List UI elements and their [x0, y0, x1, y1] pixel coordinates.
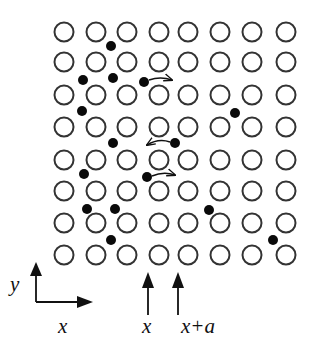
interstitial-atom — [170, 138, 180, 148]
interstitial-atom — [230, 108, 240, 118]
host-atom — [87, 53, 106, 72]
host-atom — [150, 182, 169, 201]
jump-arrow-left — [147, 141, 170, 145]
interstitial-atom — [82, 204, 92, 214]
host-atom — [211, 182, 230, 201]
host-atom — [277, 23, 296, 42]
host-atom — [243, 53, 262, 72]
interstitial-atom — [108, 73, 118, 83]
host-atom — [277, 86, 296, 105]
host-atom — [179, 151, 198, 170]
diffusion-lattice-diagram — [0, 0, 316, 356]
y-axis-arrowhead-icon — [30, 262, 42, 276]
host-atom — [118, 151, 137, 170]
host-atom — [118, 53, 137, 72]
interstitial-atom — [268, 235, 278, 245]
interstitial-atom — [106, 41, 116, 51]
host-atom — [277, 118, 296, 137]
host-atom — [150, 118, 169, 137]
host-atom — [277, 246, 296, 265]
host-atom — [243, 118, 262, 137]
host-atom — [179, 182, 198, 201]
jump-arrows — [147, 78, 175, 176]
host-atom — [118, 86, 137, 105]
host-atom — [150, 214, 169, 233]
interstitial-atom — [108, 138, 118, 148]
host-atom — [87, 214, 106, 233]
host-atom — [87, 182, 106, 201]
host-atom — [55, 214, 74, 233]
interstitial-atom — [77, 106, 87, 116]
host-atom — [118, 118, 137, 137]
host-atom — [211, 151, 230, 170]
host-atom — [179, 246, 198, 265]
host-atom — [87, 23, 106, 42]
host-atom — [87, 118, 106, 137]
host-atom — [179, 23, 198, 42]
host-atom — [211, 53, 230, 72]
up-arrowhead-icon — [142, 272, 154, 288]
host-atom — [55, 151, 74, 170]
host-atom — [179, 118, 198, 137]
host-atom — [211, 246, 230, 265]
host-atom — [55, 86, 74, 105]
interstitial-atom — [110, 204, 120, 214]
host-atom — [87, 151, 106, 170]
host-atom — [150, 86, 169, 105]
host-atom — [211, 23, 230, 42]
host-atom — [211, 214, 230, 233]
host-atom — [55, 23, 74, 42]
host-atom — [87, 246, 106, 265]
host-atom — [179, 86, 198, 105]
plane-markers — [142, 272, 184, 315]
jump-arrow-right — [149, 78, 172, 80]
host-atom — [243, 182, 262, 201]
plane-x-plus-a-label: x+a — [181, 316, 215, 337]
host-atom — [55, 53, 74, 72]
up-arrowhead-icon — [172, 272, 184, 288]
host-atom — [55, 246, 74, 265]
host-atom — [118, 182, 137, 201]
host-atom — [55, 118, 74, 137]
y-axis-label: y — [10, 274, 19, 295]
host-atom — [277, 151, 296, 170]
host-atom — [118, 23, 137, 42]
host-atom — [277, 53, 296, 72]
interstitial-atom — [78, 75, 88, 85]
host-atom — [150, 151, 169, 170]
host-atom — [150, 246, 169, 265]
host-atom — [243, 214, 262, 233]
host-atom — [277, 182, 296, 201]
host-atom — [179, 53, 198, 72]
interstitial-atom — [79, 169, 89, 179]
interstitial-atom — [106, 235, 116, 245]
interstitial-atom — [142, 172, 152, 182]
jump-arrow-right — [152, 173, 175, 176]
interstitial-atom — [204, 205, 214, 215]
host-atom — [243, 246, 262, 265]
host-atom — [150, 53, 169, 72]
coordinate-axes — [30, 262, 93, 308]
host-atom — [118, 246, 137, 265]
host-atom — [243, 23, 262, 42]
host-atom — [150, 23, 169, 42]
plane-x-label: x — [142, 316, 151, 337]
host-atom — [243, 86, 262, 105]
interstitial-atom — [139, 77, 149, 87]
host-atom — [243, 151, 262, 170]
host-atom — [211, 86, 230, 105]
x-axis-label: x — [58, 316, 67, 337]
host-atom — [118, 214, 137, 233]
host-atom — [277, 214, 296, 233]
host-atom — [87, 86, 106, 105]
x-axis-arrowhead-icon — [77, 296, 93, 308]
host-atom — [179, 214, 198, 233]
host-atom — [211, 118, 230, 137]
host-atom — [55, 182, 74, 201]
